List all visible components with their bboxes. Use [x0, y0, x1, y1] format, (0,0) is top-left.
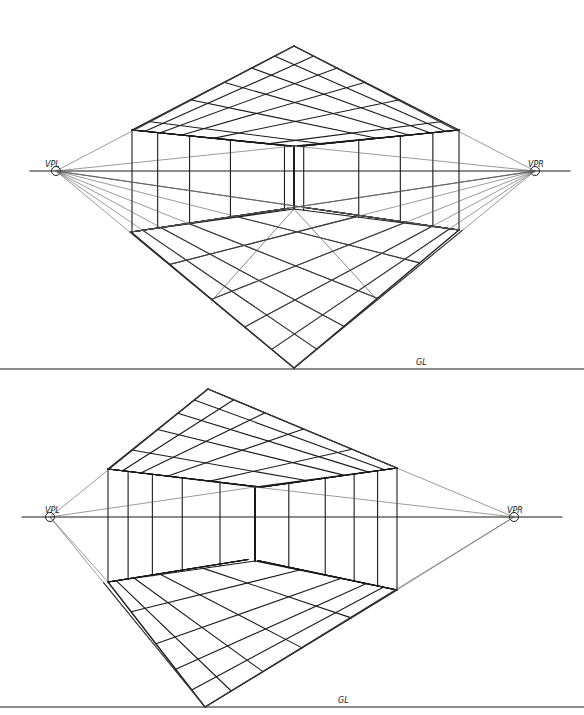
construction-ray: [56, 146, 294, 171]
grid-line: [108, 561, 255, 582]
grid-line: [123, 400, 234, 471]
perspective-drawing-canvas: VPL VPR GL VPL VPR GL: [0, 0, 584, 715]
construction-ray: [56, 46, 294, 171]
construction-ray: [50, 517, 108, 582]
construction-ray: [245, 171, 535, 327]
grid-line: [252, 68, 430, 133]
bottom-vpr-label: VPR: [507, 506, 523, 515]
bottom-gl-label: GL: [338, 696, 349, 705]
top-vpl-label: VPL: [45, 160, 60, 169]
grid-line: [131, 570, 299, 612]
grid-line: [108, 582, 205, 707]
construction-ray: [205, 517, 514, 707]
top-vpr-label: VPR: [528, 160, 544, 169]
construction-ray: [294, 46, 535, 171]
grid-line: [294, 130, 459, 146]
top-gl-label: GL: [416, 358, 427, 367]
construction-ray: [294, 171, 535, 368]
construction-ray: [56, 171, 420, 263]
grid-line: [161, 574, 302, 647]
grid-line: [160, 68, 337, 133]
bottom-vpl-label: VPL: [45, 506, 60, 515]
diagonal-ray: [213, 209, 295, 300]
bottom-perspective-figure: [0, 389, 584, 707]
construction-ray: [56, 171, 344, 326]
construction-ray: [255, 487, 514, 517]
top-perspective-figure: [0, 46, 584, 369]
grid-line: [156, 578, 341, 643]
grid-line: [194, 400, 384, 470]
construction-ray: [56, 171, 377, 298]
construction-ray: [397, 517, 514, 590]
construction-ray: [294, 146, 535, 171]
grid-line: [167, 429, 303, 476]
grid-line: [192, 587, 383, 690]
grid-line: [132, 130, 294, 146]
grid-line: [134, 578, 263, 671]
construction-ray: [50, 389, 208, 517]
grid-line: [157, 429, 343, 475]
